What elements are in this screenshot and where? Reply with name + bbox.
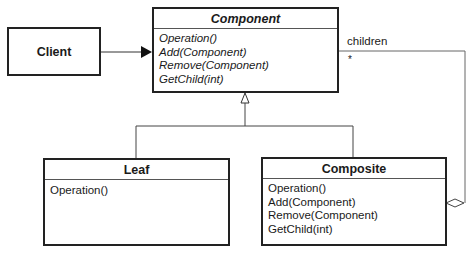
aggregation-multiplicity-label: * [348, 54, 352, 65]
operation: Remove(Component) [268, 209, 445, 223]
composite-class-name: Composite [322, 162, 387, 176]
component-operations: Operation() Add(Component) Remove(Compon… [154, 29, 337, 86]
operation: GetChild(int) [268, 223, 445, 237]
leaf-class-name: Leaf [124, 163, 150, 177]
leaf-class: Leaf Operation() [43, 158, 230, 246]
operation: Add(Component) [159, 46, 337, 60]
client-class-name: Client [37, 45, 72, 59]
leaf-class-header: Leaf [45, 160, 228, 180]
composite-operations: Operation() Add(Component) Remove(Compon… [263, 179, 445, 236]
operation: Add(Component) [268, 196, 445, 210]
inheritance-triangle [241, 93, 249, 103]
composite-class-header: Composite [263, 159, 445, 179]
composite-class: Composite Operation() Add(Component) Rem… [261, 157, 447, 246]
operation: Remove(Component) [159, 59, 337, 73]
operation: Operation() [159, 32, 337, 46]
component-class: Component Operation() Add(Component) Rem… [152, 7, 339, 93]
operation: GetChild(int) [159, 73, 337, 87]
operation: Operation() [268, 182, 445, 196]
aggregation-diamond [446, 199, 464, 207]
client-class: Client [7, 27, 101, 76]
association-arrowhead [141, 46, 152, 58]
operation: Operation() [50, 184, 228, 198]
component-class-name: Component [211, 12, 280, 26]
component-class-header: Component [154, 9, 337, 29]
leaf-operations: Operation() [45, 180, 228, 198]
aggregation-role-label: children [347, 35, 387, 47]
